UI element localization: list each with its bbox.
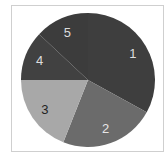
pie-chart: 12345 bbox=[0, 0, 168, 164]
slice-label-4: 4 bbox=[36, 53, 43, 68]
slice-label-1: 1 bbox=[129, 46, 136, 61]
slice-label-5: 5 bbox=[64, 25, 71, 40]
slice-label-2: 2 bbox=[102, 121, 109, 136]
slice-label-3: 3 bbox=[41, 102, 48, 117]
pie-slices bbox=[21, 13, 155, 147]
